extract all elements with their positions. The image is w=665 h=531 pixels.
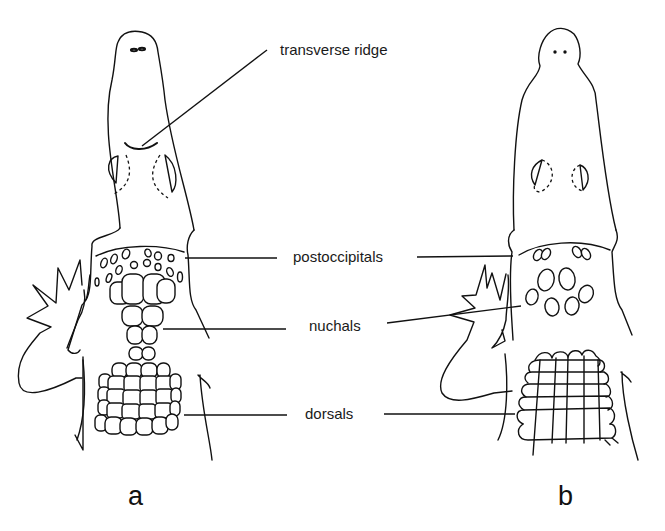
postoccipital-scales-b <box>532 245 593 262</box>
panel-b-drawing <box>441 28 638 460</box>
scalation-diagram: transverse ridge postoccipitals nuchals … <box>0 0 665 531</box>
label-transverse-ridge: transverse ridge <box>280 41 388 58</box>
label-postoccipitals: postoccipitals <box>293 248 383 265</box>
nuchals-leader-b <box>387 306 521 323</box>
dorsal-scales-b <box>517 350 618 455</box>
panel-label-a: a <box>128 481 144 511</box>
nuchal-scales-a <box>110 274 175 360</box>
panel-a-drawing <box>18 31 212 460</box>
nuchal-scales-b <box>524 267 596 317</box>
panel-label-b: b <box>558 481 573 511</box>
dorsal-scales-a <box>95 363 181 435</box>
postoccipitals-leader-b <box>417 256 513 257</box>
label-nuchals: nuchals <box>309 317 361 334</box>
label-dorsals: dorsals <box>305 405 353 422</box>
